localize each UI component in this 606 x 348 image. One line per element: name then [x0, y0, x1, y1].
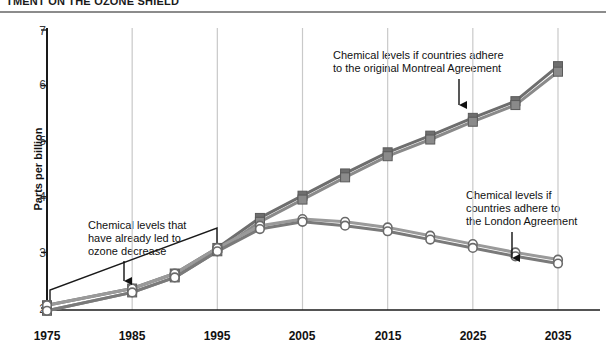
marker-square	[468, 117, 477, 126]
marker-circle	[341, 221, 350, 230]
marker-circle	[128, 288, 137, 297]
chart-plot-area: Parts per billion 7 6 5 4 3 2 1975 1985 …	[0, 13, 606, 348]
marker-square	[426, 135, 435, 144]
marker-circle	[256, 225, 265, 234]
chart-title-strip: TMENT ON THE OZONE SHIELD	[0, 0, 606, 11]
marker-circle	[213, 247, 222, 256]
marker-square	[341, 173, 350, 182]
historic-bracket-shape	[50, 228, 217, 310]
marker-square	[298, 195, 307, 204]
page-title: TMENT ON THE OZONE SHIELD	[6, 0, 179, 7]
marker-circle	[554, 259, 563, 268]
marker-circle	[469, 244, 478, 253]
marker-circle	[383, 227, 392, 236]
marker-square	[383, 152, 392, 161]
marker-circle	[426, 235, 435, 244]
marker-circle	[298, 218, 307, 227]
marker-circle	[170, 273, 179, 282]
marker-square	[554, 67, 563, 76]
chart-svg	[0, 13, 606, 348]
marker-square	[511, 101, 520, 110]
marker-circle	[43, 306, 52, 315]
chart-page: TMENT ON THE OZONE SHIELD Parts per bill…	[0, 0, 606, 348]
